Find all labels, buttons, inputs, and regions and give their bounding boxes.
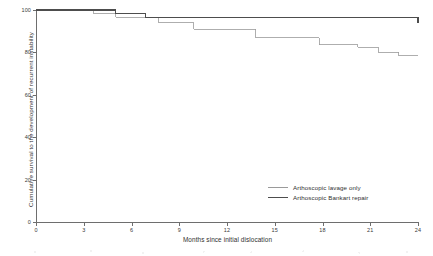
legend-label-bankart: Arthoscopic Bankart repair (293, 194, 369, 201)
figure-kaplan-meier-survival: 03691215182124 020406080100 Cumulative s… (0, 0, 433, 256)
x-tick-mark (179, 223, 180, 226)
y-tick-mark (33, 10, 36, 11)
legend-line-icon-lavage (268, 187, 288, 188)
legend-item-bankart: Arthoscopic Bankart repair (268, 192, 418, 202)
x-tick-label: 0 (34, 227, 37, 233)
x-axis-title: Months since initial dislocation (36, 236, 419, 243)
x-tick-label: 6 (130, 227, 133, 233)
x-tick-mark (227, 223, 228, 226)
scan-artifact-strip (0, 248, 433, 256)
y-axis-line (36, 10, 37, 223)
x-tick-label: 12 (224, 227, 230, 233)
x-tick-mark (370, 223, 371, 226)
legend-label-lavage: Arthoscopic lavage only (293, 184, 361, 191)
x-tick-label: 21 (367, 227, 373, 233)
x-tick-mark (36, 223, 37, 226)
x-tick-label: 9 (178, 227, 181, 233)
x-tick-label: 24 (415, 227, 421, 233)
x-tick-mark (323, 223, 324, 226)
legend-item-lavage: Arthoscopic lavage only (268, 182, 418, 192)
x-tick-label: 18 (319, 227, 325, 233)
x-tick-mark (132, 223, 133, 226)
x-tick-label: 15 (272, 227, 278, 233)
x-tick-mark (275, 223, 276, 226)
x-tick-label: 3 (82, 227, 85, 233)
x-tick-mark (418, 223, 419, 226)
y-axis-title: Cumulative survival to the development o… (27, 12, 34, 227)
x-tick-mark (84, 223, 85, 226)
legend: Arthoscopic lavage only Arthoscopic Bank… (268, 182, 418, 202)
legend-line-icon-bankart (268, 197, 288, 198)
